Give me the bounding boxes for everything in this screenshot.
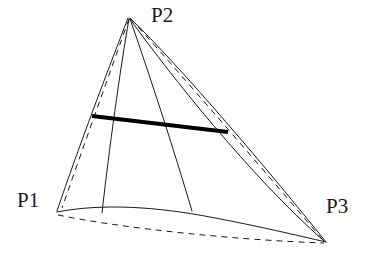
interior-isoparametric-lines bbox=[102, 19, 192, 213]
figure-root: P1 P2 P3 bbox=[0, 0, 375, 259]
dashed-back-curve-p1-p3 bbox=[58, 215, 324, 243]
vertex-label-p1: P1 bbox=[17, 190, 39, 211]
front-curve-p1-p3 bbox=[57, 207, 326, 242]
triangular-patch-diagram bbox=[0, 0, 375, 259]
interior-line-right bbox=[130, 19, 192, 211]
hidden-dashed-edges bbox=[58, 19, 324, 243]
vertex-label-p3: P3 bbox=[326, 196, 348, 217]
dashed-edge-p2-p1 bbox=[62, 19, 129, 208]
dashed-edge-p2-p3 bbox=[131, 19, 322, 239]
vertex-label-p2: P2 bbox=[151, 5, 173, 26]
